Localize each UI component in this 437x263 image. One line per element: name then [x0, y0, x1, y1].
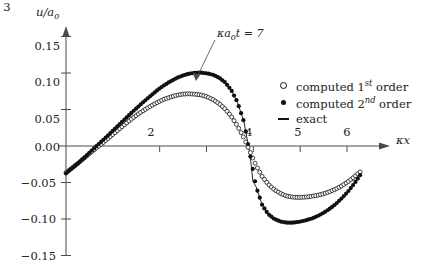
x-axis-title-kappa: κ [396, 133, 404, 147]
data-point-filled [258, 196, 262, 200]
legend-label-post: order [372, 80, 408, 94]
y-axis-arrow [63, 26, 70, 36]
data-point-open [237, 126, 241, 130]
data-point-filled [232, 93, 236, 97]
y-tick-label: 0.00 [8, 140, 60, 154]
y-tick-label: 0.05 [8, 112, 60, 126]
x-tick-label: 3 [0, 0, 14, 14]
axes [58, 33, 382, 255]
data-point-filled [253, 179, 257, 183]
y-tick-label: −0.15 [4, 249, 56, 263]
data-point-open [255, 166, 259, 170]
legend-entry-first-order: computed 1st order [277, 78, 408, 94]
annotation-t: t [236, 27, 240, 40]
data-point-filled [248, 155, 252, 159]
x-tick-label: 4 [242, 125, 256, 139]
legend-label: computed 2nd order [296, 95, 411, 111]
x-axis-arrow [379, 142, 390, 149]
legend-label-pre: computed 2 [296, 97, 365, 111]
legend-entry-exact: exact [277, 112, 327, 126]
y-tick-label: −0.05 [4, 176, 56, 190]
data-point-filled [230, 89, 234, 93]
line-marker-icon [277, 118, 290, 120]
data-point-filled [251, 167, 255, 171]
data-point-filled [262, 206, 266, 210]
y-axis-title-subscript: o [54, 11, 59, 21]
data-point-filled [260, 203, 264, 207]
x-tick-label: 2 [144, 125, 158, 139]
data-point-open [258, 170, 262, 174]
x-tick-label: 5 [291, 125, 305, 139]
open-circle-icon [277, 82, 290, 89]
filled-circle-icon [277, 100, 290, 105]
legend-entry-second-order: computed 2nd order [277, 95, 411, 111]
x-tick-label: 6 [340, 125, 354, 139]
y-tick-label: 0.15 [8, 39, 60, 53]
x-axis-title: κx [396, 133, 410, 147]
data-point-filled [358, 173, 362, 177]
annotation-equals-value: = 7 [244, 27, 264, 40]
legend-label: computed 1st order [296, 78, 408, 94]
annotation-label: κaot = 7 [217, 27, 263, 42]
data-point-open [248, 151, 252, 155]
data-point-filled [237, 104, 241, 108]
data-curves [64, 40, 362, 225]
legend-label: exact [296, 112, 327, 126]
data-point-filled [239, 111, 243, 115]
y-axis-title-text: u/a [36, 5, 54, 19]
data-point-filled [255, 189, 259, 193]
y-axis-title: u/ao [36, 5, 59, 21]
legend-label-post: order [375, 97, 411, 111]
x-axis-title-x: x [404, 133, 411, 147]
y-tick-label: 0.10 [8, 75, 60, 89]
data-point-open [253, 161, 257, 165]
legend-label-sup: nd [365, 95, 376, 105]
data-point-filled [241, 118, 245, 122]
legend-label-pre: computed 1 [296, 80, 365, 94]
figure-burgers-wave: 0.15 0.10 0.05 0.00 −0.05 −0.10 −0.15 2 … [0, 0, 437, 263]
data-point-filled [234, 98, 238, 102]
data-point-open [230, 115, 234, 119]
data-point-filled [246, 142, 250, 146]
y-tick-label: −0.10 [4, 212, 56, 226]
data-point-open [232, 119, 236, 123]
data-point-open [234, 122, 238, 126]
